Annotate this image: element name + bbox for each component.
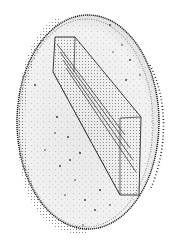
stipple-illustration (0, 0, 176, 244)
